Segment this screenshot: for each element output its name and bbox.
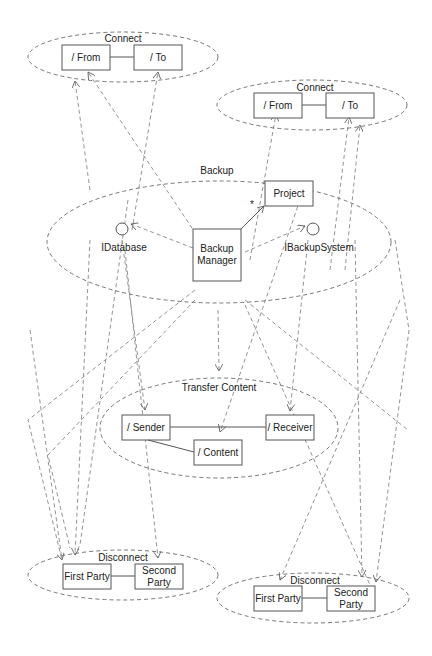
multiplicity-label: *: [250, 199, 254, 210]
dependency-line: [245, 305, 370, 585]
backup-manager-label-line1: Backup: [200, 243, 234, 254]
dependency-line: [376, 240, 409, 582]
interface-label-ibackupsystem: IBackupSystem: [284, 242, 353, 253]
interface-lollipop-idatabase-icon[interactable]: [116, 223, 128, 235]
role-label-second-party-line2: Party: [339, 599, 362, 610]
dependency-line: [30, 330, 62, 560]
collaboration-backup: Backup Backup Manager Project * IDatabas…: [47, 165, 391, 303]
dependency-line: [122, 240, 145, 410]
collaboration-connect-right: Connect / From / To: [217, 80, 407, 130]
collaboration-label: Transfer Content: [182, 382, 257, 393]
role-label-receiver: / Receiver: [267, 422, 313, 433]
interface-lollipop-ibackupsystem-icon[interactable]: [307, 223, 319, 235]
collaboration-label: Connect: [104, 33, 141, 44]
role-label-sender: / Sender: [127, 422, 165, 433]
role-label-second-party-line1: Second: [334, 587, 368, 598]
role-label-to: / To: [342, 100, 358, 111]
collaboration-disconnect-left: Disconnect First Party Second Party: [28, 550, 218, 600]
role-label-from: / From: [72, 52, 101, 63]
dependency-line: [355, 240, 362, 577]
role-label-content: / Content: [198, 447, 239, 458]
dependency-line: [245, 300, 408, 430]
dependency-line: [88, 72, 200, 240]
collaboration-disconnect-right: Disconnect First Party Second Party: [217, 573, 409, 623]
dependency-line: [132, 72, 158, 230]
collaboration-label: Backup: [200, 165, 234, 176]
role-label-second-party-line1: Second: [142, 565, 176, 576]
role-label-from: / From: [264, 100, 293, 111]
collaboration-label: Disconnect: [290, 575, 340, 586]
collaboration-transfer-content: Transfer Content / Sender / Receiver / C…: [100, 378, 338, 478]
dependency-line: [75, 81, 90, 190]
role-label-first-party: First Party: [64, 571, 110, 582]
role-label-second-party-line2: Party: [147, 577, 170, 588]
association-line: [148, 440, 194, 452]
role-label-first-party: First Party: [255, 593, 301, 604]
role-label-to: / To: [150, 52, 166, 63]
dependency-line: [75, 240, 90, 555]
backup-manager-label-line2: Manager: [197, 255, 237, 266]
project-label: Project: [273, 188, 304, 199]
collaboration-connect-left: Connect / From / To: [28, 32, 218, 82]
dependency-line: [290, 240, 308, 411]
collaboration-label: Disconnect: [98, 552, 148, 563]
dependency-lines: [28, 72, 409, 585]
interface-label-idatabase: IDatabase: [101, 242, 147, 253]
dependency-line: [218, 310, 219, 371]
collaboration-label: Connect: [296, 82, 333, 93]
uml-collaboration-diagram: Connect / From / To Connect / From / To …: [0, 0, 432, 656]
